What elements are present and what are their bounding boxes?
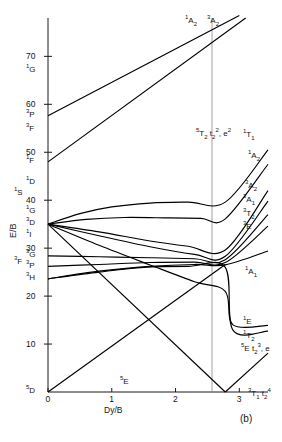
free-ion-term-label: 3F [26,125,34,133]
y-tick-label: 20 [26,292,35,301]
strong-field-term-label: 5E [120,378,129,386]
energy-curve-3A2-mid [48,191,268,254]
strong-field-term-label: 3A2 [207,17,219,25]
energy-curve-3T1 [225,353,268,392]
free-ion-term-label: 3H [26,274,35,282]
strong-field-term-label: 1A2 [185,17,197,25]
energy-curve-1T1 [48,150,268,224]
energy-curve-3A2-upper [48,16,239,116]
ticks-group [44,56,239,392]
x-tick-label: 0 [46,395,51,404]
x-tick-label: 2 [173,395,178,404]
strong-field-term-label: 5T2 t22, e2 [196,130,231,138]
y-tick-label: 10 [26,340,35,349]
free-ion-term-label: 1G [26,66,36,74]
energy-curve-5E [48,264,225,392]
free-ion-term-label: 1S [14,189,23,197]
x-tick-label: 1 [109,395,114,404]
energy-curve-1A2-mid [48,164,268,224]
strong-field-term-label: 3T2 [243,210,255,218]
strong-field-term-label: 1T1 [243,131,255,139]
free-ion-term-label: 1F [26,157,34,165]
x-tick-label: 3 [237,395,242,404]
free-ion-term-label: 3F [14,258,22,266]
free-ion-term-label: 1D [26,178,35,186]
strong-field-term-label: 3A1 [243,196,255,204]
free-ion-term-label: 3P [26,111,35,119]
energy-curve-1A2-upper [48,18,246,162]
tanabe-sugano-plot [0,0,282,442]
free-ion-term-label: 1I [26,231,32,239]
free-ion-term-label: 3G [26,251,36,259]
y-tick-label: 40 [26,196,35,205]
strong-field-term-label: 3T1 t24 [248,390,271,398]
y-tick-label: 70 [26,52,35,61]
strong-field-term-label: 1T2 [243,332,255,340]
strong-field-term-label: 5E t23, e [241,345,270,353]
free-ion-term-label: 3P [26,262,35,270]
free-ion-term-label: 3D [26,219,35,227]
strong-field-term-label: 1E [243,318,252,326]
y-axis-title: E/B [8,223,18,238]
strong-field-term-label: 1A1 [245,268,257,276]
strong-field-term-label: 3E [243,223,252,231]
curves-group [48,16,268,392]
panel-letter: (b) [240,414,252,424]
strong-field-term-label: 3A2 [245,182,257,190]
x-axis-title: Dy/B [104,406,122,415]
free-ion-term-label: 5D [26,387,35,395]
axes-group [48,18,268,392]
free-ion-term-label: 1G [26,207,36,215]
strong-field-term-label: 1A2 [248,152,260,160]
energy-level-diagram: E/B Dy/B (b) 70605040302010 0123 1G3P3F1… [0,0,282,442]
